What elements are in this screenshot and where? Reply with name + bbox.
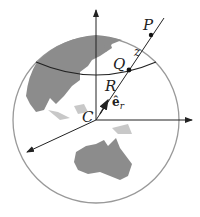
diagram-canvas: P Q z R C êr (0, 0, 200, 217)
label-P: P (142, 16, 154, 34)
earth-diagram: P Q z R C êr (0, 0, 200, 217)
label-Q: Q (113, 55, 125, 73)
label-C: C (82, 108, 94, 126)
point-Q (127, 68, 132, 73)
label-z: z (133, 45, 141, 59)
label-R: R (104, 77, 116, 95)
